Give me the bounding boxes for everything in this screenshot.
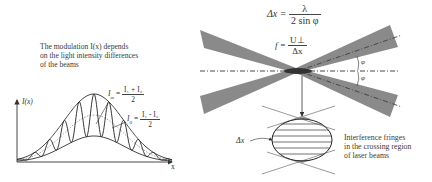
I0-denominator: 2 xyxy=(140,120,160,129)
right-caption: Interference fringes in the crossing reg… xyxy=(344,133,432,160)
I0-formula: I0 = I₁ - I₂ 2 xyxy=(127,110,160,129)
f-numerator: U⊥ xyxy=(288,35,307,46)
dx-pointer-arrow xyxy=(250,138,272,141)
x-axis-label: x xyxy=(171,162,175,171)
dx-numerator: λ xyxy=(289,3,320,15)
frequency-formula: f = U⊥ Δx xyxy=(275,35,307,56)
left-caption: The modulation I(x) depends on the light… xyxy=(40,42,210,69)
fringe-lines xyxy=(272,124,332,154)
angle-label-bottom: φ xyxy=(361,74,365,82)
fringe-spacing-label: Δx xyxy=(236,136,244,145)
fringe-detail xyxy=(250,106,335,174)
left-caption-line: of the beams xyxy=(40,60,210,69)
beam-lower-left xyxy=(200,68,296,114)
f-denominator: Δx xyxy=(288,46,307,56)
beam-upper-right xyxy=(296,25,398,73)
angle-label-top: φ xyxy=(361,58,365,66)
measurement-volume xyxy=(272,119,332,161)
dx-lhs: Δx = xyxy=(267,8,287,19)
Im-denominator: 2 xyxy=(122,95,144,104)
I0-leader-line xyxy=(112,122,126,128)
fringe-spacing-formula: Δx = λ 2 sin φ xyxy=(267,3,321,26)
beam-edge-line xyxy=(267,152,335,174)
left-caption-line: on the light intensity differences xyxy=(40,51,210,60)
I0-subscript: 0 xyxy=(130,120,133,125)
Im-subscript: m xyxy=(111,95,115,100)
I0-numerator: I₁ - I₂ xyxy=(140,110,160,120)
dx-fraction: λ 2 sin φ xyxy=(289,3,320,26)
Im-fraction: I₁ + I₂ 2 xyxy=(122,85,144,104)
I0-fraction: I₁ - I₂ 2 xyxy=(140,110,160,129)
angle-arc-upper xyxy=(357,56,359,70)
Im-formula: Im = I₁ + I₂ 2 xyxy=(108,85,144,104)
left-caption-line: The modulation I(x) depends xyxy=(40,42,210,51)
f-lhs: f = xyxy=(275,40,286,50)
right-caption-line: Interference fringes xyxy=(344,133,432,142)
Im-numerator: I₁ + I₂ xyxy=(122,85,144,95)
right-caption-line: in the crossing region xyxy=(344,142,432,151)
dx-denominator: 2 sin φ xyxy=(289,15,320,26)
f-fraction: U⊥ Δx xyxy=(288,35,307,56)
y-axis-label: I(x) xyxy=(22,97,33,106)
angle-arc-lower xyxy=(357,72,359,86)
right-caption-line: of laser beams xyxy=(344,151,432,160)
